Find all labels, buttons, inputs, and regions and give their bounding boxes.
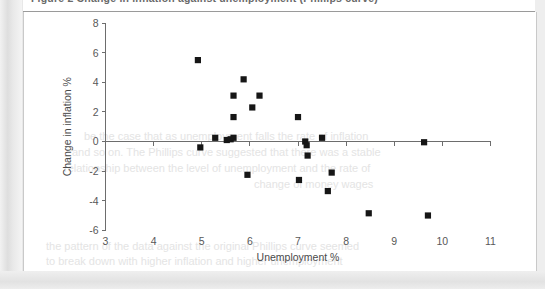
figure-panel: be the case that as unemployment falls t…	[23, 12, 537, 271]
ghost-text-line: to break down with higher inflation and …	[46, 255, 343, 267]
figure-caption-strip: Figure 2 Change in inflation against une…	[23, 0, 535, 11]
ghost-text-line: the pattern of the data against the orig…	[46, 240, 359, 252]
ghost-text-line: relationship between the level of unempl…	[64, 162, 370, 174]
page-gutter-left	[0, 0, 22, 289]
page-gutter-bottom	[0, 271, 545, 289]
figure-caption: Figure 2 Change in inflation against une…	[31, 0, 378, 4]
ghost-text-line: and so on. The Phillips curve suggested …	[72, 146, 381, 158]
ghost-text-line: be the case that as unemployment falls t…	[84, 130, 368, 142]
ghost-text-line: change of money wages	[254, 178, 373, 190]
